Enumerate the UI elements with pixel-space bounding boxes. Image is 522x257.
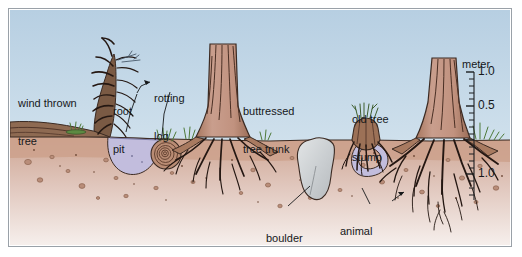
label-boulder: boulder — [266, 207, 303, 245]
scale-tick-1-above: 1.0 — [478, 65, 495, 78]
label-old-tree-stump: old tree stump — [352, 88, 389, 188]
label-root-pit-line1: root — [113, 105, 137, 118]
label-buttressed-tree-trunk-line2: tree trunk — [243, 143, 294, 156]
scale-tick-1-below: 1.0 — [478, 167, 495, 180]
label-animal-burrow-line1: animal — [340, 225, 374, 238]
label-root-pit: root pit — [113, 80, 137, 180]
figure-canvas: wind thrown tree root pit rotting log bu… — [10, 10, 510, 245]
scale-tick-0-5-above: 0.5 — [478, 99, 495, 112]
label-root-pit-line2: pit — [113, 143, 137, 156]
label-wind-thrown-tree-line2: tree — [18, 135, 77, 148]
label-rotting-log-line2: log — [154, 130, 185, 143]
label-rotting-log-line1: rotting — [154, 92, 185, 105]
label-boulder-line1: boulder — [266, 232, 303, 245]
label-buttressed-tree-trunk: buttressed tree trunk — [243, 80, 294, 180]
figure-frame: wind thrown tree root pit rotting log bu… — [8, 8, 512, 247]
label-rotting-log: rotting log — [154, 67, 185, 167]
label-animal-burrow: animal burrow — [340, 200, 374, 245]
label-old-tree-stump-line2: stump — [352, 151, 389, 164]
label-old-tree-stump-line1: old tree — [352, 113, 389, 126]
label-wind-thrown-tree: wind thrown tree — [18, 72, 77, 172]
label-wind-thrown-tree-line1: wind thrown — [18, 97, 77, 110]
label-buttressed-tree-trunk-line1: buttressed — [243, 105, 294, 118]
figure-root: wind thrown tree root pit rotting log bu… — [0, 0, 522, 257]
